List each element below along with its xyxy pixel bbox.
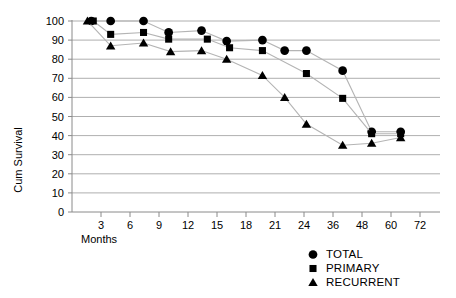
data-series-layer bbox=[83, 17, 406, 149]
gridlines bbox=[72, 21, 440, 193]
y-tick-label-70: 70 bbox=[52, 72, 64, 84]
series-recurrent bbox=[83, 17, 406, 149]
data-point-total-4 bbox=[197, 26, 206, 35]
x-tick-label-12: 12 bbox=[182, 219, 194, 231]
x-tick-label-3: 3 bbox=[98, 219, 104, 231]
y-tick-label-10: 10 bbox=[52, 187, 64, 199]
data-point-primary-6 bbox=[259, 47, 266, 54]
y-axis-title: Cum Survival bbox=[12, 127, 24, 192]
circle-marker-icon bbox=[309, 250, 318, 259]
data-point-total-9 bbox=[338, 66, 347, 75]
series-primary bbox=[90, 17, 404, 137]
data-point-total-7 bbox=[280, 46, 289, 55]
y-tick-label-20: 20 bbox=[52, 168, 64, 180]
series-line-total bbox=[91, 21, 400, 132]
y-tick-label-90: 90 bbox=[52, 34, 64, 46]
x-axis-title: Months bbox=[81, 233, 118, 245]
x-tick-label-18: 18 bbox=[240, 219, 252, 231]
y-tick-label-30: 30 bbox=[52, 149, 64, 161]
y-axis: 0102030405060708090100 bbox=[46, 15, 72, 218]
data-point-primary-3 bbox=[165, 36, 172, 43]
legend-label-primary: PRIMARY bbox=[326, 262, 380, 274]
y-tick-label-40: 40 bbox=[52, 130, 64, 142]
survival-chart: 0102030405060708090100 36912151821243648… bbox=[0, 0, 456, 298]
data-point-total-2 bbox=[139, 17, 148, 26]
data-point-recurrent-6 bbox=[258, 71, 267, 79]
x-tick-label-48: 48 bbox=[356, 219, 368, 231]
x-tick-label-60: 60 bbox=[385, 219, 397, 231]
x-axis: 369121518212436486072 bbox=[72, 212, 440, 231]
data-point-primary-4 bbox=[204, 36, 211, 43]
series-total bbox=[87, 17, 405, 137]
data-point-total-6 bbox=[258, 36, 267, 45]
data-point-primary-1 bbox=[107, 31, 114, 38]
triangle-marker-icon bbox=[308, 278, 317, 286]
y-tick-label-80: 80 bbox=[52, 53, 64, 65]
x-tick-label-9: 9 bbox=[156, 219, 162, 231]
legend-label-recurrent: RECURRENT bbox=[326, 276, 400, 288]
square-marker-icon bbox=[309, 265, 316, 272]
data-point-primary-5 bbox=[226, 44, 233, 51]
data-point-primary-9 bbox=[368, 130, 375, 137]
data-point-total-8 bbox=[302, 46, 311, 55]
data-point-total-5 bbox=[222, 37, 231, 46]
y-tick-label-50: 50 bbox=[52, 111, 64, 123]
x-tick-label-36: 36 bbox=[327, 219, 339, 231]
data-point-primary-7 bbox=[303, 70, 310, 77]
series-line-recurrent bbox=[88, 21, 401, 145]
x-tick-label-72: 72 bbox=[414, 219, 426, 231]
data-point-primary-2 bbox=[140, 29, 147, 36]
y-tick-label-100: 100 bbox=[46, 15, 64, 27]
x-tick-label-6: 6 bbox=[127, 219, 133, 231]
data-point-total-1 bbox=[106, 17, 115, 26]
data-point-total-3 bbox=[164, 28, 173, 37]
y-tick-label-60: 60 bbox=[52, 91, 64, 103]
chart-canvas: 0102030405060708090100 36912151821243648… bbox=[0, 0, 456, 298]
x-tick-label-24: 24 bbox=[298, 219, 310, 231]
x-tick-label-21: 21 bbox=[269, 219, 281, 231]
legend-label-total: TOTAL bbox=[326, 248, 363, 260]
x-tick-label-15: 15 bbox=[211, 219, 223, 231]
data-point-primary-8 bbox=[339, 95, 346, 102]
chart-legend: TOTALPRIMARYRECURRENT bbox=[308, 248, 400, 288]
y-tick-label-0: 0 bbox=[58, 206, 64, 218]
